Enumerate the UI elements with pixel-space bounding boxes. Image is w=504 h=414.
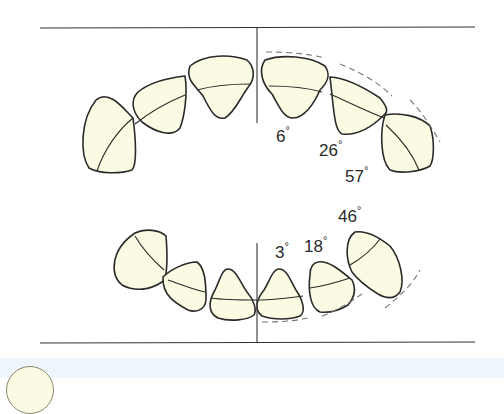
upper-angle-label-canine: 57° bbox=[345, 164, 368, 186]
lower-left-central-incisor bbox=[210, 269, 257, 320]
lower-right-lateral-incisor bbox=[309, 262, 354, 312]
upper-right-central-incisor bbox=[261, 57, 328, 118]
lower-angle-label-lateral: 18° bbox=[304, 234, 327, 256]
lower-right-central-incisor bbox=[257, 269, 303, 319]
upper-left-central-incisor bbox=[189, 56, 254, 118]
upper-horizontal-reference-line bbox=[40, 27, 475, 28]
upper-left-lateral-incisor bbox=[133, 76, 186, 133]
lower-right-canine bbox=[347, 232, 402, 298]
upper-angle-label-central: 6° bbox=[276, 124, 290, 146]
upper-right-lateral-incisor bbox=[330, 77, 387, 134]
circle-badge-icon bbox=[6, 366, 54, 414]
lower-angle-label-canine: 46° bbox=[338, 204, 361, 226]
bottom-caption-strip bbox=[0, 358, 504, 378]
upper-left-canine bbox=[83, 97, 136, 173]
upper-angle-label-lateral: 26° bbox=[319, 138, 342, 160]
lower-angle-label-central: 3° bbox=[275, 240, 289, 262]
lower-left-lateral-incisor bbox=[163, 262, 206, 311]
lower-left-canine bbox=[114, 230, 167, 289]
upper-right-canine bbox=[382, 114, 434, 172]
